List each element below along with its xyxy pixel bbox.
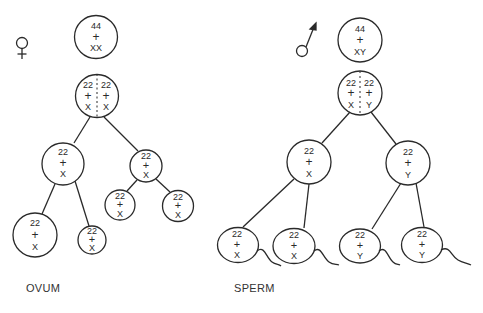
- ovum-cell: 22 + X: [13, 213, 57, 257]
- svg-text:Y: Y: [366, 100, 372, 110]
- female-dividing-cell: 22 + X 22 + X: [76, 74, 119, 118]
- male-dividing-cell: 22 + X 22 + Y: [338, 71, 382, 115]
- svg-text:+: +: [102, 89, 109, 103]
- svg-text:X: X: [143, 170, 149, 180]
- female-secondary-oocyte: 22 + X: [42, 143, 84, 185]
- sperm-cell: 22 + Y: [340, 229, 401, 265]
- male-parent-cell: 44 + XY: [338, 18, 382, 62]
- svg-text:X: X: [60, 169, 66, 179]
- svg-text:+: +: [92, 30, 99, 44]
- svg-text:+: +: [347, 86, 354, 100]
- svg-text:+: +: [84, 89, 91, 103]
- sperm-label: SPERM: [234, 282, 275, 294]
- svg-text:X: X: [234, 250, 240, 260]
- svg-text:Y: Y: [357, 251, 363, 261]
- svg-text:Y: Y: [419, 250, 425, 260]
- svg-text:X: X: [85, 102, 91, 112]
- svg-text:Y: Y: [405, 170, 411, 180]
- svg-text:X: X: [306, 169, 312, 179]
- svg-text:+: +: [419, 238, 425, 250]
- male-secondary-spermatocyte: 22 + Y: [386, 141, 430, 185]
- ovum-label: OVUM: [26, 282, 60, 294]
- svg-text:X: X: [32, 242, 38, 252]
- svg-text:+: +: [357, 239, 363, 251]
- svg-text:+: +: [404, 156, 411, 170]
- svg-text:+: +: [356, 33, 363, 47]
- svg-text:+: +: [234, 238, 240, 250]
- polar-body-cell: 22 + X: [105, 190, 135, 220]
- female-first-polar-body: 22 + X: [130, 150, 162, 182]
- polar-body-cell: 22 + X: [78, 226, 106, 254]
- svg-text:22: 22: [30, 218, 40, 228]
- svg-text:X: X: [117, 209, 123, 219]
- female-parent-cell: 44 + XX: [75, 16, 118, 59]
- polar-body-cell: 22 + X: [163, 191, 194, 222]
- svg-text:+: +: [305, 155, 312, 169]
- svg-text:+: +: [365, 86, 372, 100]
- svg-text:+: +: [291, 239, 297, 251]
- sperm-cell: 22 + Y: [402, 228, 472, 266]
- svg-text:+: +: [31, 228, 38, 242]
- male-secondary-spermatocyte: 22 + X: [287, 140, 331, 184]
- female-symbol-icon: [17, 38, 28, 60]
- svg-text:XX: XX: [90, 43, 102, 53]
- svg-text:X: X: [175, 210, 181, 220]
- svg-text:X: X: [291, 251, 297, 261]
- sperm-cell: 22 + X: [218, 228, 282, 267]
- meiosis-diagram: 44 + XX 22 + X 22 + X 22 + X 22 + X 22 +…: [0, 0, 483, 313]
- svg-text:X: X: [348, 100, 354, 110]
- male-lineage-lines: [243, 112, 424, 229]
- sperm-cell: 22 + X: [273, 229, 339, 266]
- male-symbol-icon: [297, 23, 317, 57]
- svg-text:XY: XY: [354, 47, 366, 57]
- svg-text:X: X: [103, 102, 109, 112]
- svg-text:+: +: [59, 156, 66, 170]
- svg-text:X: X: [89, 243, 95, 253]
